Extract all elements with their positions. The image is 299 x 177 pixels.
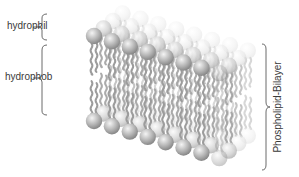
lower-head xyxy=(122,123,138,139)
upper-tail xyxy=(149,59,151,88)
upper-head xyxy=(193,60,209,76)
upper-tail xyxy=(249,58,251,87)
upper-tail xyxy=(203,75,205,104)
upper-tail xyxy=(230,73,232,102)
lower-tail xyxy=(100,74,102,107)
hydrophil-label: hydrophil xyxy=(7,20,48,31)
lower-head xyxy=(140,129,156,145)
lower-head xyxy=(193,145,209,161)
upper-head xyxy=(157,49,173,65)
lower-head xyxy=(175,139,191,155)
lower-tail xyxy=(244,96,246,129)
upper-tail xyxy=(240,65,242,94)
upper-head xyxy=(104,33,120,49)
upper-head xyxy=(86,28,102,44)
lower-head xyxy=(104,118,120,134)
upper-tail xyxy=(185,70,187,99)
upper-head xyxy=(175,54,191,70)
upper-tail xyxy=(96,43,98,72)
diagram-canvas: hydrophil hydrophob Phospholipid-Bilayer xyxy=(0,0,299,177)
upper-tail xyxy=(221,80,223,109)
upper-tail xyxy=(167,64,169,93)
lower-head xyxy=(86,113,102,129)
phospholipid-bilayer-label: Phospholipid-Bilayer xyxy=(272,61,283,152)
lower-tail xyxy=(249,98,251,129)
lower-head xyxy=(157,134,173,150)
upper-tail xyxy=(114,49,116,78)
lower-tail xyxy=(91,81,93,114)
upper-head xyxy=(122,38,138,54)
bilayer-brace xyxy=(262,44,270,170)
upper-tail xyxy=(91,43,93,74)
lower-head xyxy=(211,150,227,166)
upper-tail xyxy=(131,54,133,83)
upper-head xyxy=(140,44,156,60)
hydrophob-label: hydrophob xyxy=(5,71,52,82)
upper-head xyxy=(211,65,227,81)
